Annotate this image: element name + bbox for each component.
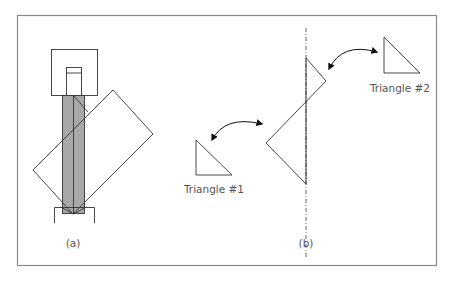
curved-arrow-1 — [212, 122, 262, 140]
rotated-square — [33, 90, 153, 214]
panel-a-label: (a) — [66, 237, 81, 249]
panel-a: (a) — [33, 50, 153, 250]
panel-b: Triangle #1 Triangle #2 (b) — [183, 28, 430, 258]
triangle-1 — [196, 140, 232, 175]
triangle-2-label: Triangle #2 — [369, 82, 430, 94]
triangle-2 — [384, 37, 420, 73]
curved-arrow-2 — [329, 49, 377, 69]
inner-slot — [67, 68, 82, 96]
panel-b-label: (b) — [299, 237, 314, 249]
triangle-1-label: Triangle #1 — [183, 183, 244, 195]
diagram-canvas: (a) Triangle #1 Triangle #2 (b) — [0, 0, 449, 282]
combined-shape — [266, 58, 326, 184]
